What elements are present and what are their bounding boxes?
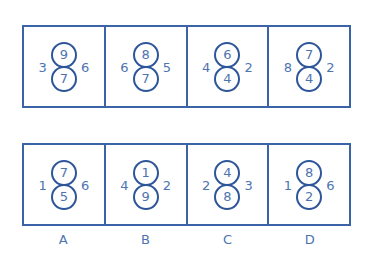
bottom-circle: 2: [296, 184, 322, 210]
question-row: 3 9 7 6 6 8 7 5 4 6 4 2 8 7 4 2: [22, 25, 351, 108]
left-number: 6: [120, 59, 128, 74]
option-label-a[interactable]: A: [22, 232, 104, 247]
figure-eight: 4 6 4 2: [214, 42, 240, 92]
right-number: 3: [244, 177, 252, 192]
option-label-b[interactable]: B: [104, 232, 186, 247]
bottom-circle: 4: [296, 66, 322, 92]
top-circle: 7: [51, 160, 77, 186]
bottom-circle: 5: [51, 184, 77, 210]
option-label-d[interactable]: D: [269, 232, 351, 247]
bottom-circle: 8: [214, 184, 240, 210]
option-labels: A B C D: [22, 232, 351, 247]
top-circle: 8: [296, 160, 322, 186]
left-number: 4: [120, 177, 128, 192]
bottom-circle: 7: [133, 66, 159, 92]
question-panel-4: 8 7 4 2: [267, 27, 349, 106]
right-number: 6: [81, 177, 89, 192]
option-panel-c[interactable]: 2 4 8 3: [186, 145, 268, 224]
right-number: 2: [326, 59, 334, 74]
question-panel-1: 3 9 7 6: [24, 27, 104, 106]
left-number: 3: [39, 59, 47, 74]
bottom-circle: 4: [214, 66, 240, 92]
top-circle: 9: [51, 42, 77, 68]
figure-eight: 1 7 5 6: [51, 160, 77, 210]
question-panel-2: 6 8 7 5: [104, 27, 186, 106]
bottom-circle: 7: [51, 66, 77, 92]
figure-eight: 4 1 9 2: [133, 160, 159, 210]
right-number: 6: [81, 59, 89, 74]
option-panel-d[interactable]: 1 8 2 6: [267, 145, 349, 224]
option-panel-b[interactable]: 4 1 9 2: [104, 145, 186, 224]
right-number: 2: [244, 59, 252, 74]
left-number: 4: [202, 59, 210, 74]
option-label-c[interactable]: C: [187, 232, 269, 247]
right-number: 5: [163, 59, 171, 74]
right-number: 2: [163, 177, 171, 192]
left-number: 1: [284, 177, 292, 192]
left-number: 1: [39, 177, 47, 192]
bottom-circle: 9: [133, 184, 159, 210]
question-panel-3: 4 6 4 2: [186, 27, 268, 106]
options-row: 1 7 5 6 4 1 9 2 2 4 8 3 1 8 2 6: [22, 143, 351, 226]
option-panel-a[interactable]: 1 7 5 6: [24, 145, 104, 224]
top-circle: 4: [214, 160, 240, 186]
left-number: 8: [284, 59, 292, 74]
left-number: 2: [202, 177, 210, 192]
top-circle: 7: [296, 42, 322, 68]
right-number: 6: [326, 177, 334, 192]
top-circle: 8: [133, 42, 159, 68]
figure-eight: 3 9 7 6: [51, 42, 77, 92]
top-circle: 6: [214, 42, 240, 68]
top-circle: 1: [133, 160, 159, 186]
figure-eight: 6 8 7 5: [133, 42, 159, 92]
figure-eight: 8 7 4 2: [296, 42, 322, 92]
figure-eight: 2 4 8 3: [214, 160, 240, 210]
figure-eight: 1 8 2 6: [296, 160, 322, 210]
